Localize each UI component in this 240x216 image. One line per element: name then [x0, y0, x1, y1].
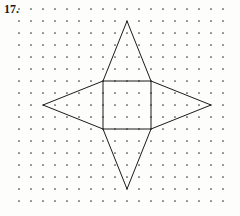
grid-dot: [42, 116, 44, 118]
grid-dot: [174, 92, 176, 94]
bottom-triangle: [103, 129, 151, 189]
grid-dot: [30, 32, 32, 34]
grid-dot: [54, 8, 56, 10]
grid-dot: [198, 104, 200, 106]
grid-dot: [126, 152, 128, 154]
grid-dot: [78, 32, 80, 34]
grid-dot: [222, 8, 224, 10]
grid-dot: [210, 116, 212, 118]
grid-dot: [54, 92, 56, 94]
grid-dot: [114, 92, 116, 94]
grid-dot: [78, 104, 80, 106]
grid-dot: [186, 164, 188, 166]
grid-dot: [174, 8, 176, 10]
grid-dot: [42, 8, 44, 10]
grid-dot: [18, 104, 20, 106]
grid-dot: [78, 164, 80, 166]
right-triangle: [151, 81, 211, 129]
grid-dot: [30, 104, 32, 106]
grid-dot: [150, 20, 152, 22]
grid-dot: [54, 104, 56, 106]
grid-dot: [150, 56, 152, 58]
grid-dot: [150, 200, 152, 202]
grid-dot: [30, 80, 32, 82]
grid-dot: [18, 116, 20, 118]
grid-dot: [30, 92, 32, 94]
grid-dot: [138, 176, 140, 178]
grid-dot: [54, 20, 56, 22]
grid-dot: [18, 32, 20, 34]
grid-dot: [78, 56, 80, 58]
grid-dot: [222, 56, 224, 58]
grid-dot: [198, 200, 200, 202]
grid-dot: [138, 20, 140, 22]
grid-dot: [54, 128, 56, 130]
grid-dot: [30, 188, 32, 190]
grid-dot: [90, 128, 92, 130]
grid-dot: [42, 56, 44, 58]
grid-dot: [198, 140, 200, 142]
grid-dot: [66, 116, 68, 118]
grid-dot: [174, 56, 176, 58]
grid-dot: [186, 44, 188, 46]
grid-dot: [174, 32, 176, 34]
grid-dot: [162, 164, 164, 166]
grid-dot: [66, 20, 68, 22]
grid-dot: [114, 32, 116, 34]
grid-dot: [186, 92, 188, 94]
grid-dot: [210, 8, 212, 10]
grid-dot: [186, 32, 188, 34]
grid-dot: [138, 116, 140, 118]
grid-dot: [18, 68, 20, 70]
grid-dot: [66, 68, 68, 70]
grid-dot: [210, 32, 212, 34]
grid-dot: [18, 20, 20, 22]
grid-dot: [114, 140, 116, 142]
grid-dot: [210, 176, 212, 178]
grid-dot: [162, 200, 164, 202]
grid-dot: [18, 164, 20, 166]
grid-dot: [54, 200, 56, 202]
grid-dot: [30, 68, 32, 70]
grid-dot: [114, 44, 116, 46]
grid-dot: [102, 200, 104, 202]
grid-dot: [90, 200, 92, 202]
grid-dot: [162, 152, 164, 154]
grid-dot: [18, 80, 20, 82]
grid-dot: [198, 32, 200, 34]
grid-dot: [150, 176, 152, 178]
grid-dot: [90, 116, 92, 118]
grid-dot: [78, 200, 80, 202]
grid-dot: [42, 68, 44, 70]
grid-dot: [150, 68, 152, 70]
grid-dot: [174, 20, 176, 22]
grid-dot: [54, 116, 56, 118]
grid-dot: [198, 20, 200, 22]
grid-dot: [186, 200, 188, 202]
top-triangle: [103, 21, 151, 81]
grid-dot: [18, 44, 20, 46]
grid-dot: [174, 152, 176, 154]
grid-dot: [42, 176, 44, 178]
grid-dot: [138, 104, 140, 106]
grid-dot: [126, 200, 128, 202]
grid-dot: [78, 44, 80, 46]
grid-dot: [222, 116, 224, 118]
grid-dot: [162, 116, 164, 118]
grid-dot: [30, 140, 32, 142]
grid-dot: [174, 80, 176, 82]
grid-dot: [222, 104, 224, 106]
grid-dot: [30, 44, 32, 46]
grid-dot: [30, 8, 32, 10]
grid-dot: [162, 80, 164, 82]
grid-dot: [138, 152, 140, 154]
grid-dot: [198, 68, 200, 70]
grid-dot: [138, 32, 140, 34]
grid-dot: [198, 92, 200, 94]
grid-dot: [222, 164, 224, 166]
grid-dot: [222, 128, 224, 130]
grid-dot: [114, 8, 116, 10]
grid-dot: [138, 140, 140, 142]
grid-dot: [18, 176, 20, 178]
grid-dot: [186, 104, 188, 106]
